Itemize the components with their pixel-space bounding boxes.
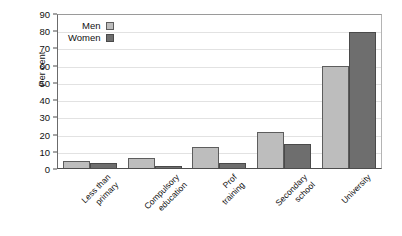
y-axis-tick-label: 20 [39,129,53,140]
x-axis-label-slot: Secondaryschool [252,170,317,234]
bar-group [252,15,317,168]
y-axis-tick-label: 70 [39,43,53,54]
y-axis-ticks: 0102030405060708090 [0,14,57,169]
x-axis-label-slot: Compulsoryeducation [122,170,187,234]
x-axis-label: University [339,172,373,206]
y-axis-tick: 40 [39,95,57,106]
y-axis-tick: 50 [39,77,57,88]
x-axis-label: Secondaryschool [273,172,317,216]
x-axis-label-line1: University [339,172,372,205]
legend-item: Men [68,20,114,32]
bar-men [322,66,349,168]
y-axis-tick-label: 30 [39,112,53,123]
y-axis-tick: 10 [39,146,57,157]
y-axis-tick: 80 [39,26,57,37]
legend-item: Women [68,32,114,44]
bar-group [316,15,381,168]
bar-women [155,166,182,168]
bar-group [123,15,188,168]
x-axis-label: Less thanprimary [79,172,120,213]
x-axis-label-slot: University [317,170,382,234]
x-axis-label: Proftraining [211,172,246,207]
y-axis-tick-label: 90 [39,9,53,20]
women-swatch [106,34,114,42]
legend-label: Men [82,20,100,32]
y-axis-tick: 60 [39,60,57,71]
bar-chart: Per cent 0102030405060708090 Less thanpr… [0,0,402,236]
y-axis-tick: 30 [39,112,57,123]
y-axis-tick-label: 60 [39,60,53,71]
y-axis-tick: 20 [39,129,57,140]
bar-men [128,158,155,168]
x-axis-labels: Less thanprimaryCompulsoryeducationProft… [57,170,382,234]
y-axis-tick-label: 80 [39,26,53,37]
bar-group [187,15,252,168]
x-axis-label: Compulsoryeducation [141,172,188,219]
y-axis-tick-label: 50 [39,77,53,88]
men-swatch [106,22,114,30]
legend-label: Women [68,32,101,44]
y-axis-tick-label: 10 [39,146,53,157]
bar-women [219,163,246,168]
bar-women [284,144,311,168]
bar-women [349,32,376,168]
chart-legend: MenWomen [68,20,114,44]
x-axis-label-slot: Less thanprimary [57,170,122,234]
y-axis-tick: 0 [45,164,57,175]
bar-men [257,132,284,168]
x-axis-label-slot: Proftraining [187,170,252,234]
y-axis-tick: 70 [39,43,57,54]
y-axis-tick-label: 40 [39,95,53,106]
y-axis-tick-label: 0 [45,164,53,175]
bar-men [192,147,219,168]
bar-women [90,163,117,168]
bar-men [63,161,90,168]
y-axis-tick: 90 [39,9,57,20]
